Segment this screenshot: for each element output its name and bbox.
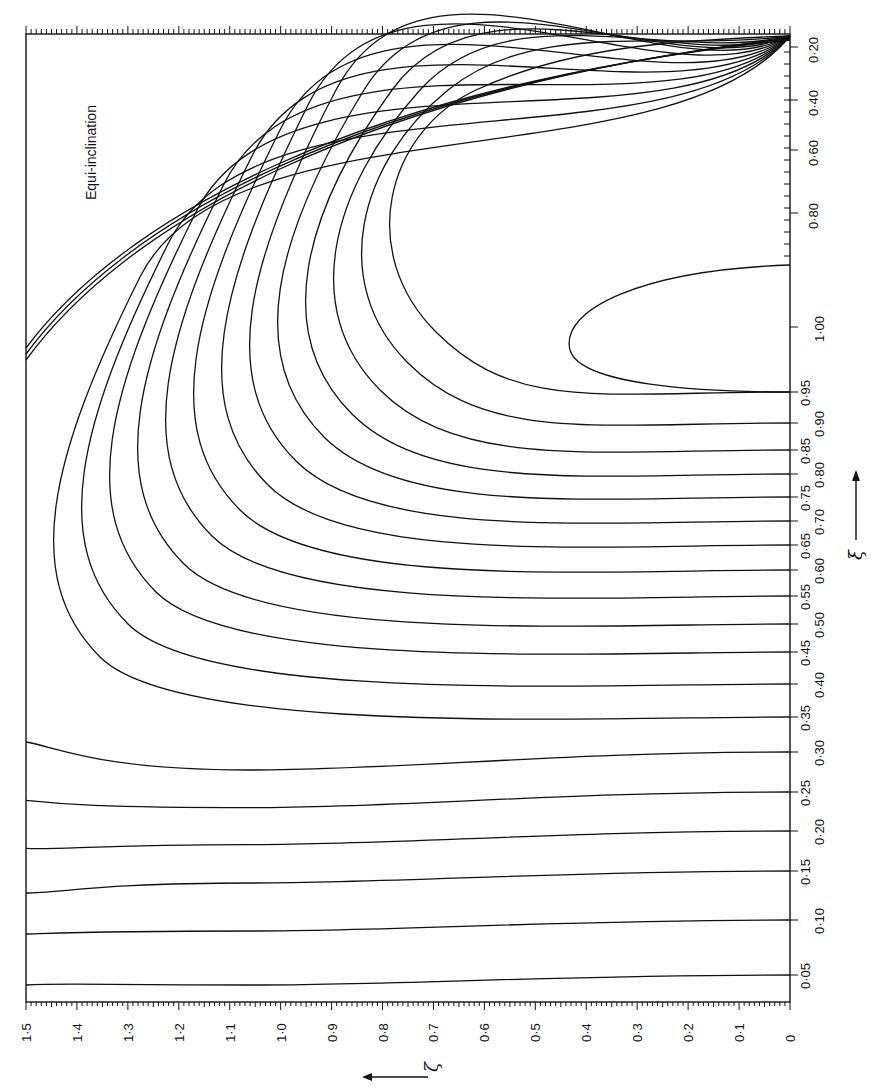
contour-curve — [250, 14, 790, 523]
xi-tick-label: 0·65 — [798, 533, 813, 559]
xi-tick-label: 0·10 — [812, 908, 827, 934]
zeta-tick-label: 0·8 — [376, 1023, 391, 1042]
xi-upper-tick-label: 0·40 — [806, 90, 821, 116]
xi-tick-label: 0·90 — [812, 411, 827, 437]
equi-inclination-chart: 1·51·41·31·21·11·00·90·80·70·60·50·40·30… — [0, 0, 895, 1092]
zeta-tick-label: 0·9 — [325, 1023, 340, 1042]
xi-tick-label: 0·55 — [798, 584, 813, 610]
contour-curve — [26, 871, 790, 893]
contour-curve — [82, 36, 790, 686]
xi-tick-label: 0·05 — [798, 963, 813, 989]
contour-curve — [26, 920, 790, 934]
contour-curve — [278, 22, 790, 499]
contour-curve — [334, 36, 790, 453]
xi-tick-label: 0·85 — [798, 438, 813, 464]
xi-tick-label: 0·95 — [798, 380, 813, 406]
zeta-axis-ticks — [26, 1002, 790, 1010]
contour-curve — [26, 831, 790, 849]
xi-tick-label: 0·15 — [798, 859, 813, 885]
zeta-tick-label: 0·5 — [528, 1023, 543, 1042]
contour-curve-inner-loop — [569, 265, 790, 392]
envelope-curve — [26, 39, 790, 354]
xi-tick-label: 0·40 — [812, 672, 827, 698]
contour-curve — [362, 36, 790, 425]
zeta-tick-label: 0·6 — [477, 1023, 492, 1042]
xi-tick-label: 0·45 — [798, 640, 813, 666]
envelope-curve — [26, 38, 790, 360]
zeta-tick-label: 0·7 — [426, 1023, 441, 1042]
zeta-tick-label: 1·0 — [274, 1023, 289, 1042]
xi-tick-label: 1·00 — [812, 316, 827, 342]
zeta-axis-labels: 1·51·41·31·21·11·00·90·80·70·60·50·40·30… — [19, 1023, 798, 1042]
zeta-tick-label: 1·1 — [223, 1023, 238, 1042]
zeta-tick-label: 1·4 — [70, 1023, 85, 1042]
zeta-tick-label: 0·3 — [630, 1023, 645, 1042]
zeta-tick-label: 0·2 — [681, 1023, 696, 1042]
xi-tick-label: 0·30 — [812, 740, 827, 766]
annotation-label: Equi-inclination — [83, 105, 99, 200]
xi-axis-arrow: ξ — [845, 470, 866, 560]
zeta-tick-label: 0·1 — [732, 1023, 747, 1042]
xi-tick-label: 0·75 — [798, 485, 813, 511]
contour-curve — [306, 29, 790, 476]
zeta-tick-label: 0·4 — [579, 1023, 594, 1042]
contour-curve — [54, 36, 790, 719]
xi-tick-label: 0·50 — [812, 612, 827, 638]
arrow-left-icon — [362, 1073, 372, 1081]
xi-upper-tick-label: 0·20 — [806, 37, 821, 63]
xi-tick-label: 0·80 — [812, 462, 827, 488]
contour-curve — [26, 792, 790, 808]
xi-upper-tick-label: 0·60 — [806, 140, 821, 166]
contour-curve — [26, 975, 790, 985]
top-axis-ticks — [26, 26, 790, 34]
contour-curve — [194, 36, 790, 572]
plot-frame — [26, 34, 790, 1002]
zeta-tick-label: 1·3 — [121, 1023, 136, 1042]
zeta-axis-arrow: ζ — [362, 1061, 442, 1081]
xi-tick-label: 0·25 — [798, 780, 813, 806]
zeta-tick-label: 1·2 — [172, 1023, 187, 1042]
xi-tick-label: 0·35 — [798, 705, 813, 731]
xi-axis-ticks — [784, 40, 798, 975]
xi-upper-tick-label: 0·80 — [806, 203, 821, 229]
xi-axis-labels: 0·050·100·150·200·250·300·350·400·450·50… — [798, 37, 827, 989]
zeta-symbol: ζ — [421, 1061, 442, 1072]
contour-curve — [390, 36, 790, 394]
xi-symbol: ξ — [845, 549, 866, 560]
contour-curve — [166, 36, 790, 598]
xi-tick-label: 0·60 — [812, 558, 827, 584]
zeta-tick-label: 0 — [783, 1035, 798, 1042]
contour-curves — [26, 14, 790, 985]
xi-tick-label: 0·20 — [812, 819, 827, 845]
arrow-up-icon — [852, 470, 860, 481]
xi-tick-label: 0·70 — [812, 509, 827, 535]
contour-curve — [26, 742, 790, 770]
zeta-tick-label: 1·5 — [19, 1023, 34, 1042]
